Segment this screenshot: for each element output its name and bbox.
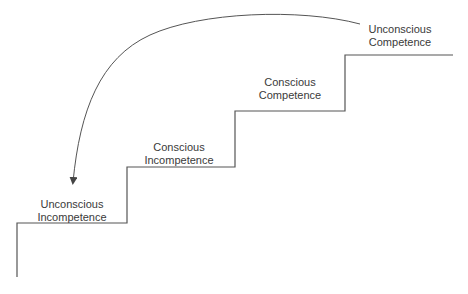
- stage-label-conscious-incompetence: Conscious Incompetence: [124, 141, 234, 167]
- stage-label-line1: Conscious: [235, 76, 345, 89]
- stage-label-line2: Incompetence: [124, 154, 234, 167]
- stage-label-unconscious-incompetence: Unconscious Incompetence: [17, 198, 127, 224]
- stage-label-line2: Competence: [235, 89, 345, 102]
- stage-label-unconscious-competence: Unconscious Competence: [345, 23, 455, 49]
- stage-label-line2: Incompetence: [17, 211, 127, 224]
- stage-label-line1: Conscious: [124, 141, 234, 154]
- stage-label-line2: Competence: [345, 36, 455, 49]
- stage-label-line1: Unconscious: [17, 198, 127, 211]
- stage-label-line1: Unconscious: [345, 23, 455, 36]
- stage-label-conscious-competence: Conscious Competence: [235, 76, 345, 102]
